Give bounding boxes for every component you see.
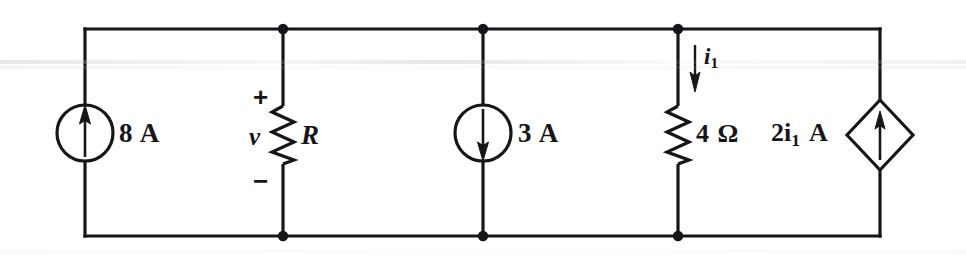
resistor-r-zigzag — [272, 106, 294, 164]
label-source-8a: 8 A — [119, 120, 160, 147]
circuit-diagram: 8 A + v R − 3 A i1 4 Ω 2i1A — [0, 0, 966, 261]
current-source-8a-symbol — [57, 105, 113, 161]
node-dot-4ohm-bottom — [673, 231, 683, 241]
label-resistor-r: R — [301, 122, 319, 149]
label-dependent-source: 2i1A — [771, 120, 828, 146]
label-dependent-source-gain: 2i — [771, 118, 791, 147]
label-current-i1-subscript: 1 — [710, 54, 718, 71]
current-arrow-i1 — [690, 45, 700, 92]
label-dependent-source-subscript: 1 — [791, 130, 800, 150]
polarity-plus-sign: + — [253, 84, 268, 110]
polarity-minus-sign: − — [253, 168, 268, 194]
node-dot-3a-bottom — [478, 231, 488, 241]
label-resistor-4ohm: 4 Ω — [696, 121, 739, 147]
node-dot-4ohm-top — [673, 24, 683, 34]
node-dot-r-bottom — [278, 231, 288, 241]
label-dependent-source-unit: A — [809, 118, 828, 147]
label-source-3a: 3 A — [518, 120, 559, 147]
node-dot-r-top — [278, 24, 288, 34]
dependent-source-symbol — [847, 100, 913, 170]
label-voltage-v: v — [249, 124, 260, 149]
node-dot-3a-top — [478, 24, 488, 34]
current-source-3a-symbol — [455, 105, 511, 161]
resistor-4ohm-zigzag — [667, 106, 689, 164]
label-current-i1: i1 — [704, 45, 718, 68]
